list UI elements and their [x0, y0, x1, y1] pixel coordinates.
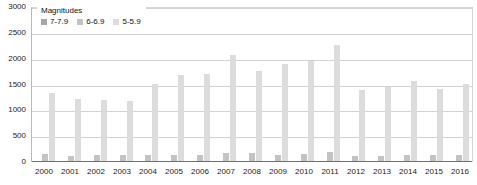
- legend-item-5-5.9[interactable]: 5-5.9: [113, 18, 140, 26]
- x-axis-tick-label: 2009: [265, 164, 291, 184]
- bar-group-2003: [110, 8, 136, 162]
- bar-group-2016: [446, 8, 472, 162]
- legend-item-label: 6-6.9: [86, 18, 104, 26]
- bar-2016-5-5.9[interactable]: [463, 84, 469, 162]
- bar-2012-5-5.9[interactable]: [359, 90, 365, 162]
- x-axis-tick-label: 2015: [421, 164, 447, 184]
- x-axis-baseline: [32, 161, 472, 162]
- legend-swatch-icon: [113, 19, 119, 25]
- bar-2014-5-5.9[interactable]: [411, 81, 417, 162]
- legend-items: 7-7.96-6.95-5.9: [41, 18, 141, 26]
- bar-2013-5-5.9[interactable]: [385, 87, 391, 162]
- x-axis-tick-label: 2004: [135, 164, 161, 184]
- legend-item-6-6.9[interactable]: 6-6.9: [77, 18, 104, 26]
- earthquake-magnitude-bar-chart: 300025002000150010005000 200020012002200…: [0, 0, 477, 185]
- bars-layer: [32, 8, 472, 162]
- bar-2006-5-5.9[interactable]: [204, 74, 210, 162]
- x-axis-tick-label: 2007: [213, 164, 239, 184]
- x-axis-tick-label: 2000: [31, 164, 57, 184]
- bar-group-2015: [420, 8, 446, 162]
- bar-2003-5-5.9[interactable]: [127, 101, 133, 162]
- bar-group-2007: [213, 8, 239, 162]
- bar-2000-5-5.9[interactable]: [49, 93, 55, 162]
- bar-group-2008: [239, 8, 265, 162]
- legend-item-label: 7-7.9: [50, 18, 68, 26]
- y-axis-tick-label: 2500: [8, 29, 26, 37]
- bar-group-2013: [368, 8, 394, 162]
- bar-group-2006: [187, 8, 213, 162]
- y-axis-tick-label: 2000: [8, 55, 26, 63]
- legend-title: Magnitudes: [41, 6, 141, 16]
- bar-group-2010: [291, 8, 317, 162]
- bar-2007-5-5.9[interactable]: [230, 55, 236, 162]
- x-axis-tick-label: 2002: [83, 164, 109, 184]
- plot-area: [31, 7, 473, 162]
- y-axis-tick-label: 0: [22, 158, 26, 166]
- y-axis-tick-label: 1000: [8, 106, 26, 114]
- bar-2004-5-5.9[interactable]: [152, 84, 158, 162]
- y-axis-tick-label: 500: [13, 132, 26, 140]
- bar-group-2000: [32, 8, 58, 162]
- x-axis-tick-label: 2006: [187, 164, 213, 184]
- bar-2010-5-5.9[interactable]: [308, 61, 314, 162]
- bar-2008-5-5.9[interactable]: [256, 71, 262, 162]
- bar-group-2004: [136, 8, 162, 162]
- x-axis-tick-label: 2016: [447, 164, 473, 184]
- y-axis: 300025002000150010005000: [0, 0, 30, 185]
- x-axis-tick-label: 2008: [239, 164, 265, 184]
- x-axis-tick-label: 2011: [317, 164, 343, 184]
- legend-swatch-icon: [77, 19, 83, 25]
- bar-group-2011: [317, 8, 343, 162]
- bar-group-2014: [394, 8, 420, 162]
- bar-group-2002: [84, 8, 110, 162]
- bar-group-2005: [161, 8, 187, 162]
- x-axis-tick-label: 2010: [291, 164, 317, 184]
- bar-2005-5-5.9[interactable]: [178, 75, 184, 162]
- x-axis-tick-label: 2005: [161, 164, 187, 184]
- x-axis-tick-label: 2012: [343, 164, 369, 184]
- x-axis-tick-label: 2013: [369, 164, 395, 184]
- x-axis-tick-label: 2001: [57, 164, 83, 184]
- bar-group-2001: [58, 8, 84, 162]
- legend-item-label: 5-5.9: [122, 18, 140, 26]
- legend-swatch-icon: [41, 19, 47, 25]
- x-axis: 2000200120022003200420052006200720082009…: [31, 164, 473, 184]
- legend-item-7-7.9[interactable]: 7-7.9: [41, 18, 68, 26]
- bar-2001-5-5.9[interactable]: [75, 99, 81, 162]
- bar-group-2009: [265, 8, 291, 162]
- bar-2011-5-5.9[interactable]: [334, 45, 340, 162]
- bar-2002-5-5.9[interactable]: [101, 100, 107, 162]
- bar-group-2012: [343, 8, 369, 162]
- y-axis-tick-label: 3000: [8, 3, 26, 11]
- bar-2009-5-5.9[interactable]: [282, 64, 288, 162]
- bar-2015-5-5.9[interactable]: [437, 89, 443, 162]
- chart-legend: Magnitudes 7-7.96-6.95-5.9: [37, 4, 146, 29]
- y-axis-tick-label: 1500: [8, 81, 26, 89]
- x-axis-tick-label: 2003: [109, 164, 135, 184]
- x-axis-tick-label: 2014: [395, 164, 421, 184]
